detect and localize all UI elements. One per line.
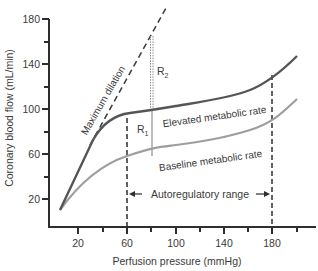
r2-segment: [151, 36, 154, 111]
elevated-curve: [60, 56, 297, 210]
max-dilation-line: [90, 8, 166, 145]
r1-label: R1: [137, 123, 149, 137]
right-arrow-head: [264, 191, 270, 197]
y-axis-label: Coronary blood flow (mL/min): [3, 49, 15, 187]
x-ticks: [78, 227, 297, 234]
left-arrow-head: [129, 191, 135, 197]
x-axis-label: Perfusion pressure (mmHg): [113, 255, 242, 267]
autoregulatory-label: Autoregulatory range: [151, 188, 249, 200]
elevated-label: Elevated metabolic rate: [162, 104, 267, 129]
autoregulation-chart: Coronary blood flow (mL/min) 180 140 100…: [0, 0, 318, 271]
y-tick-140: 140: [22, 58, 40, 70]
x-tick-100: 100: [167, 237, 185, 249]
x-tick-20: 20: [72, 237, 84, 249]
y-tick-20: 20: [28, 193, 40, 205]
y-ticks: [42, 19, 49, 199]
y-tick-labels: 180 140 100 60 20: [22, 13, 40, 205]
y-tick-100: 100: [22, 103, 40, 115]
baseline-label: Baseline metabolic rate: [158, 148, 263, 173]
r2-label: R2: [157, 65, 169, 79]
y-tick-180: 180: [22, 13, 40, 25]
autoregulatory-range: Autoregulatory range: [129, 188, 270, 200]
x-tick-60: 60: [121, 237, 133, 249]
x-tick-180: 180: [263, 237, 281, 249]
x-tick-labels: 20 60 100 140 180: [72, 237, 281, 249]
y-tick-60: 60: [28, 148, 40, 160]
x-tick-140: 140: [215, 237, 233, 249]
